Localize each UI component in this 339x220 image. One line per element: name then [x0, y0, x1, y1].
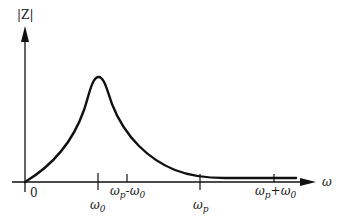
impedance-curve — [25, 77, 296, 182]
x-axis-label: ω — [322, 176, 332, 188]
y-axis-arrow-icon — [21, 26, 29, 42]
x-axis-arrow-icon — [300, 178, 316, 186]
tick-label-wp: ωp — [193, 199, 209, 214]
tick-label-wp-plus-w0: ωp+ω0 — [255, 185, 296, 200]
y-axis-label: |Z| — [17, 9, 33, 21]
tick-label-w0: ω0 — [90, 199, 106, 214]
origin-label: 0 — [30, 187, 38, 199]
tick-label-wp-minus-w0: ωp-ω0 — [110, 185, 145, 200]
